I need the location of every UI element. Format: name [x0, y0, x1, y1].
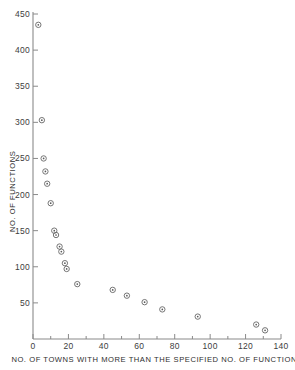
x-tick-label: 0	[30, 341, 35, 351]
data-point-center	[41, 119, 43, 121]
data-point-center	[59, 246, 61, 248]
data-point-center	[197, 316, 199, 318]
y-tick-label: 150	[15, 226, 30, 236]
y-tick-label: 300	[15, 117, 30, 127]
scatter-chart: 50100150200250300350400450 NO. OF FUNCTI…	[0, 0, 295, 370]
y-tick-label: 450	[15, 9, 30, 19]
data-point-center	[66, 268, 68, 270]
data-point-center	[112, 289, 114, 291]
y-tick-label: 50	[20, 298, 30, 308]
x-tick-label: 140	[273, 341, 288, 351]
x-tick-label: 80	[170, 341, 180, 351]
y-tick-label: 350	[15, 81, 30, 91]
data-point-center	[126, 295, 128, 297]
data-point-center	[53, 230, 55, 232]
x-tick-label: 120	[238, 341, 253, 351]
x-tick-label: 100	[203, 341, 218, 351]
data-point-center	[43, 158, 45, 160]
data-point-center	[60, 251, 62, 253]
x-tick-label: 40	[99, 341, 109, 351]
y-tick-label: 400	[15, 45, 30, 55]
y-axis-label: NO. OF FUNCTIONS	[8, 151, 17, 232]
x-tick-label: 20	[63, 341, 73, 351]
x-axis-label: NO. OF TOWNS WITH MORE THAN THE SPECIFIE…	[11, 355, 295, 364]
y-tick-label: 200	[15, 190, 30, 200]
data-point-center	[45, 171, 47, 173]
y-axis-tick-labels: 50100150200250300350400450	[15, 9, 30, 308]
data-point-center	[161, 309, 163, 311]
data-point-center	[46, 183, 48, 185]
data-point-center	[37, 24, 39, 26]
data-point-center	[50, 202, 52, 204]
data-point-center	[76, 283, 78, 285]
y-tick-label: 250	[15, 153, 30, 163]
data-point-center	[144, 301, 146, 303]
data-point-center	[255, 324, 257, 326]
data-point-center	[64, 262, 66, 264]
data-point-center	[264, 329, 266, 331]
data-point-center	[55, 234, 57, 236]
chart-background	[0, 0, 295, 370]
x-tick-label: 60	[134, 341, 144, 351]
y-tick-label: 100	[15, 262, 30, 272]
